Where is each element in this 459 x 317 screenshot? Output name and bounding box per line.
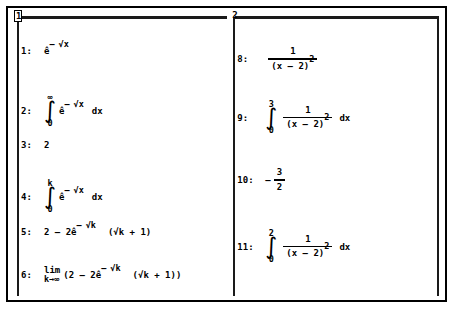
expression-body-8: 1 (x – 2)2 xyxy=(265,46,320,72)
exponent-4: √x xyxy=(74,185,84,195)
expression-row-2[interactable]: 2: ∞ ∫ 0 ê–√xdx xyxy=(21,93,103,128)
expression-label-2: 2: xyxy=(21,106,38,116)
fraction-numerator-10: 3 xyxy=(274,167,285,178)
expression-body-2: ∞ ∫ 0 ê–√xdx xyxy=(44,93,103,128)
integral-lower-limit-2: 0 xyxy=(47,119,52,128)
denominator-exponent-9: 2 xyxy=(324,112,329,123)
expression-body-4: k ∫ 0 ê–√xdx xyxy=(44,179,103,214)
integral-lower-limit-11: 0 xyxy=(269,255,274,264)
algebra-window-root: 1 1: ê–√x 2: ∞ xyxy=(0,0,459,317)
fraction-denominator-9: (x – 2)2 xyxy=(283,119,332,130)
expression-label-5: 5: xyxy=(21,227,38,237)
exponent-sign-5: – xyxy=(77,220,82,230)
expr6-suffix: (√k + 1)) xyxy=(133,270,182,280)
exponent-5: √k xyxy=(86,220,96,230)
window-frame: 1 1: ê–√x 2: ∞ xyxy=(6,6,447,302)
fraction-8: 1 (x – 2)2 xyxy=(268,46,317,72)
pane-two-expression-list[interactable]: 8: 1 (x – 2)2 9: xyxy=(237,22,435,298)
expression-row-5[interactable]: 5: 2 – 2 ê–√k(√k + 1) xyxy=(21,227,151,237)
expression-label-8: 8: xyxy=(237,54,259,64)
limit-subscript-6: k→∞ xyxy=(44,275,59,284)
expr6-prefix: (2 – 2 xyxy=(63,270,96,280)
expression-body-10: – 3 2 xyxy=(265,167,288,193)
integral-lower-limit-4: 0 xyxy=(47,205,52,214)
denominator-base-8: (x – 2) xyxy=(271,61,309,71)
fraction-denominator-10: 2 xyxy=(274,182,285,193)
limit-operator-6: lim k→∞ xyxy=(44,265,60,284)
expression-row-10[interactable]: 10: – 3 2 xyxy=(237,167,288,193)
negative-sign-10: – xyxy=(265,175,270,185)
expression-row-11[interactable]: 11: 2 ∫ 0 1 (x – 2)2 xyxy=(237,229,350,264)
differential-2: dx xyxy=(92,106,103,116)
expression-body-6: lim k→∞ (2 – 2 ê–√k(√k + 1)) xyxy=(44,265,181,284)
pane-one-number-badge[interactable]: 1 xyxy=(14,10,22,22)
exponent-sign-2: – xyxy=(64,99,69,109)
pane-one-expression-list[interactable]: 1: ê–√x 2: ∞ ∫ 0 xyxy=(21,22,225,298)
expression-body-3: 2 xyxy=(44,140,49,150)
integral-sign-2: ∞ ∫ 0 xyxy=(44,93,56,128)
differential-9: dx xyxy=(339,113,350,123)
expression-label-6: 6: xyxy=(21,270,38,280)
expression-body-9: 3 ∫ 0 1 (x – 2)2 dx xyxy=(265,100,350,135)
fraction-denominator-11: (x – 2)2 xyxy=(283,248,332,259)
fraction-10: 3 2 xyxy=(274,167,285,193)
expression-label-11: 11: xyxy=(237,242,259,252)
expression-row-6[interactable]: 6: lim k→∞ (2 – 2 ê–√k(√k + 1)) xyxy=(21,265,181,284)
expression-row-3[interactable]: 3: 2 xyxy=(21,140,49,150)
expression-row-4[interactable]: 4: k ∫ 0 ê–√xdx xyxy=(21,179,103,214)
fraction-bar-10 xyxy=(274,179,285,181)
expression-body-5: 2 – 2 ê–√k(√k + 1) xyxy=(44,227,151,237)
fraction-11: 1 (x – 2)2 xyxy=(283,234,332,260)
expression-row-9[interactable]: 9: 3 ∫ 0 1 (x – 2)2 xyxy=(237,100,350,135)
fraction-9: 1 (x – 2)2 xyxy=(283,105,332,131)
pane-one[interactable]: 1 1: ê–√x 2: ∞ xyxy=(8,8,227,300)
integral-sign-4: k ∫ 0 xyxy=(44,179,56,214)
pane-two-top-bar xyxy=(235,16,439,19)
exponent-2: √x xyxy=(74,99,84,109)
exponent-sign-4: – xyxy=(64,185,69,195)
differential-11: dx xyxy=(339,242,350,252)
fraction-numerator-8: 1 xyxy=(287,46,298,57)
pane-one-left-rule xyxy=(17,18,19,296)
fraction-numerator-9: 1 xyxy=(302,105,313,116)
denominator-base-11: (x – 2) xyxy=(286,248,324,258)
expression-label-10: 10: xyxy=(237,175,259,185)
differential-4: dx xyxy=(92,192,103,202)
exponent-6: √k xyxy=(110,263,120,273)
pane-two-right-rule xyxy=(437,18,439,296)
denominator-exponent-8: 2 xyxy=(309,54,314,65)
pane-two[interactable]: 2 8: 1 (x – 2)2 xyxy=(227,8,445,300)
expression-body-11: 2 ∫ 0 1 (x – 2)2 dx xyxy=(265,229,350,264)
denominator-exponent-11: 2 xyxy=(324,241,329,252)
expr5-prefix: 2 – 2 xyxy=(44,227,71,237)
integral-lower-limit-9: 0 xyxy=(269,126,274,135)
fraction-numerator-11: 1 xyxy=(302,234,313,245)
denominator-base-9: (x – 2) xyxy=(286,119,324,129)
expression-label-9: 9: xyxy=(237,113,259,123)
fraction-denominator-8: (x – 2)2 xyxy=(268,61,317,72)
expression-row-1[interactable]: 1: ê–√x xyxy=(21,46,69,56)
pane-container: 1 1: ê–√x 2: ∞ xyxy=(8,8,445,300)
expression-label-1: 1: xyxy=(21,46,38,56)
integral-sign-9: 3 ∫ 0 xyxy=(265,100,277,135)
expression-label-4: 4: xyxy=(21,192,38,202)
expression-row-8[interactable]: 8: 1 (x – 2)2 xyxy=(237,46,320,72)
integral-sign-11: 2 ∫ 0 xyxy=(265,229,277,264)
exponent-sign-1: – xyxy=(49,39,54,49)
expr5-suffix: (√k + 1) xyxy=(108,227,151,237)
pane-two-left-rule xyxy=(233,18,235,296)
exponent-1: √x xyxy=(59,39,69,49)
expression-label-3: 3: xyxy=(21,140,38,150)
expression-body-1: ê–√x xyxy=(44,46,69,56)
pane-one-top-bar xyxy=(17,16,227,19)
pane-two-number-badge[interactable]: 2 xyxy=(231,10,238,21)
exponent-sign-6: – xyxy=(101,263,106,273)
